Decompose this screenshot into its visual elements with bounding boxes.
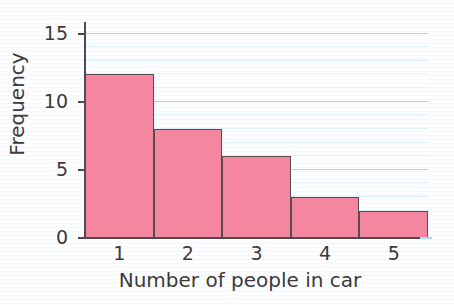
bar xyxy=(222,156,291,238)
y-axis-tick xyxy=(78,169,86,171)
x-axis-tick-label: 4 xyxy=(291,244,360,263)
x-axis-title: Number of people in car xyxy=(60,268,420,292)
y-axis-line xyxy=(84,22,86,239)
y-axis-tick xyxy=(78,237,86,239)
bar xyxy=(154,129,223,238)
x-axis-tick-label: 1 xyxy=(85,244,154,263)
y-axis-title: Frequency xyxy=(5,24,29,184)
y-axis-tick-label: 15 xyxy=(34,24,68,43)
gridline-minor xyxy=(85,60,428,61)
bar xyxy=(85,74,154,238)
gridline-minor xyxy=(85,46,428,47)
x-axis-extension xyxy=(418,237,432,239)
x-axis-line xyxy=(84,237,420,239)
x-axis-tick-label: 3 xyxy=(222,244,291,263)
y-axis-tick-label: 0 xyxy=(34,228,68,247)
y-axis-tick-label: 10 xyxy=(34,92,68,111)
y-axis-tick xyxy=(78,101,86,103)
bar xyxy=(291,197,360,238)
x-axis-tick-label: 2 xyxy=(154,244,223,263)
y-axis-tick xyxy=(78,33,86,35)
gridline-major xyxy=(85,33,428,34)
histogram-figure: 05101512345 Frequency Number of people i… xyxy=(0,0,454,305)
y-axis-tick-label: 5 xyxy=(34,160,68,179)
plot-area xyxy=(85,24,428,238)
bar xyxy=(359,211,428,238)
x-axis-tick-label: 5 xyxy=(359,244,428,263)
